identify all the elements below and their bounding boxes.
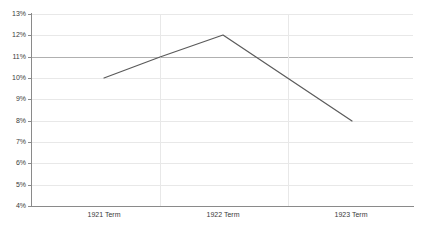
- x-tick-label-1921: 1921 Term: [88, 211, 121, 218]
- series-line: [104, 35, 352, 121]
- x-tick-label-1923: 1923 Term: [335, 211, 368, 218]
- line-chart: 13% 12% 11% 10% 9% 8% 7% 6% 5% 4% 1921 T…: [0, 0, 429, 230]
- series-layer: [0, 0, 429, 230]
- x-tick-label-1922: 1922 Term: [207, 211, 240, 218]
